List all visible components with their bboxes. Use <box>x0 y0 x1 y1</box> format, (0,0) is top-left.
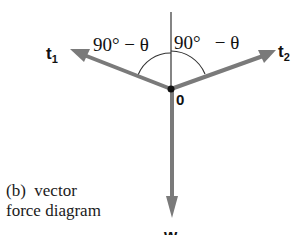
angle-label-left: 90° − θ <box>93 34 149 55</box>
arrowhead-t1-icon <box>70 49 90 62</box>
angle-arc-left <box>138 53 171 75</box>
vector-w <box>166 89 178 218</box>
label-t1: t1 <box>46 44 58 65</box>
angle-label-right: 90° − θ <box>174 32 239 53</box>
vector-t2 <box>171 50 276 89</box>
caption-line-1: (b) vector <box>6 181 101 201</box>
angle-arc-right <box>171 51 205 74</box>
label-w: w <box>163 226 178 235</box>
caption-line-2: force diagram <box>6 201 101 221</box>
vector-t1 <box>70 49 171 89</box>
label-t2: t2 <box>278 42 290 63</box>
figure-caption: (b) vector force diagram <box>6 181 101 221</box>
label-origin: 0 <box>176 91 184 108</box>
origin-point <box>168 86 175 93</box>
arrowhead-w-icon <box>166 196 178 218</box>
